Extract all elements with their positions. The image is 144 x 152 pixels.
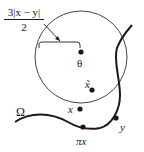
label-pi-x: πx — [76, 136, 86, 147]
label-x: x — [68, 104, 73, 115]
label-omega: Ω — [16, 106, 25, 118]
point-x — [77, 106, 82, 111]
point-y — [113, 115, 118, 120]
radius-label-numerator: 3|x − y| — [4, 6, 44, 20]
radius-label: 3|x − y| 2 — [4, 6, 44, 33]
label-y: y — [120, 122, 125, 133]
radius-bracket — [39, 42, 80, 48]
omega-boundary-curve — [15, 25, 132, 129]
point-theta — [78, 49, 83, 54]
label-theta: θ — [77, 58, 82, 69]
point-pi-x — [80, 124, 85, 129]
label-x-tilde: x̃ — [85, 79, 90, 90]
diagram-canvas: 3|x − y| 2 θ x̃ x πx y Ω — [0, 0, 144, 152]
point-x-tilde — [89, 87, 94, 92]
radius-label-denominator: 2 — [4, 20, 44, 33]
